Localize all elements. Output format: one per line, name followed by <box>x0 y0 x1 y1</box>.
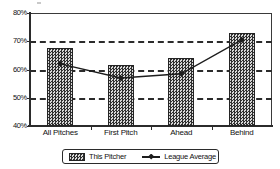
x-tick-label: Behind <box>209 128 275 137</box>
y-tick-mark <box>27 13 32 14</box>
chart-legend: This Pitcher League Average <box>62 149 219 164</box>
legend-item-this-pitcher: This Pitcher <box>63 150 126 163</box>
y-tick-label: 60% <box>0 66 27 74</box>
bar <box>108 65 134 126</box>
legend-item-league-average: League Average <box>126 150 216 163</box>
x-tick-label: First Pitch <box>88 128 154 137</box>
y-tick-label: 50% <box>0 94 27 102</box>
chart-container: 40%50%60%70%80% All PitchesFirst PitchAh… <box>0 0 280 169</box>
scan-artifact <box>37 2 41 4</box>
x-tick-label: Ahead <box>148 128 214 137</box>
x-tick-label: All Pitches <box>27 128 93 137</box>
bar <box>47 48 73 126</box>
y-tick-label: 40% <box>0 122 27 130</box>
legend-label-this-pitcher: This Pitcher <box>89 153 126 161</box>
y-tick-mark <box>27 126 32 127</box>
hatched-swatch-icon <box>69 153 85 161</box>
bar <box>229 33 255 126</box>
bar <box>168 58 194 126</box>
y-tick-label: 70% <box>0 37 27 45</box>
y-tick-label: 80% <box>0 9 27 17</box>
legend-label-league-average: League Average <box>164 153 216 161</box>
line-diamond-icon <box>142 153 160 161</box>
